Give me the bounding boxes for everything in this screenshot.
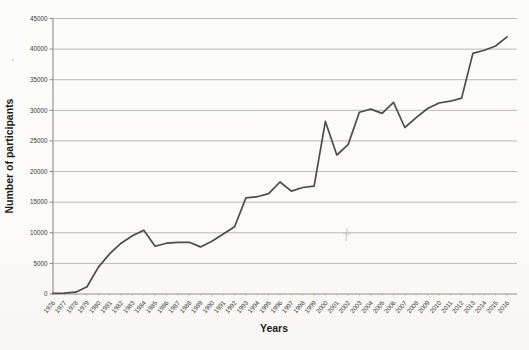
scan-speck (12, 59, 14, 61)
participants-series-line (53, 37, 507, 294)
y-tick-label: 45000 (30, 15, 48, 22)
y-tick-label: 35000 (30, 76, 48, 83)
y-tick-label: 5000 (33, 260, 48, 267)
x-tick-label: 2010 (428, 299, 443, 315)
scan-smudge (343, 228, 351, 241)
y-tick-label: 0 (44, 290, 48, 297)
y-tick-label: 40000 (30, 45, 48, 52)
y-tick-label: 10000 (30, 229, 48, 236)
x-axis-title: Years (260, 322, 288, 334)
y-tick-label: 20000 (30, 168, 48, 175)
x-tick-label: 2016 (496, 299, 511, 315)
chart-generated-layer: 0500010000150002000025000300003500040000… (30, 15, 517, 315)
y-tick-label: 25000 (30, 137, 48, 144)
participants-line-chart: 0500010000150002000025000300003500040000… (0, 0, 529, 350)
chart-canvas: 0500010000150002000025000300003500040000… (0, 0, 529, 350)
y-tick-label: 30000 (30, 107, 48, 114)
y-axis-title: Number of participants (3, 98, 15, 213)
y-tick-label: 15000 (30, 198, 48, 205)
